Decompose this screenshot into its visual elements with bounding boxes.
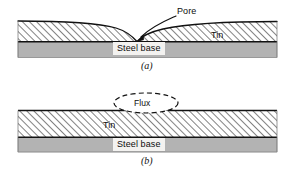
steel-base-label-b: Steel base — [113, 138, 165, 151]
tin-label-a: Tin — [211, 30, 223, 41]
figure-root: Pore Tin Steel base (a) Flux Tin Steel b… — [0, 0, 294, 173]
panel-b-caption: (b) — [141, 155, 153, 166]
panel-a-caption: (a) — [141, 60, 153, 71]
pore-label: Pore — [177, 6, 196, 17]
flux-label: Flux — [134, 98, 150, 109]
tin-label-b: Tin — [103, 120, 115, 131]
steel-base-label-a: Steel base — [113, 42, 165, 55]
